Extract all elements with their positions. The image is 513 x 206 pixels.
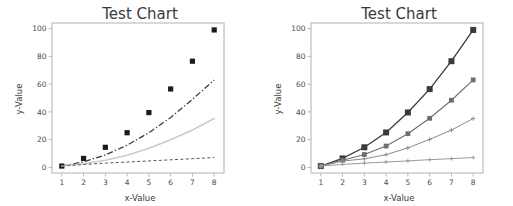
y-axis-label-right: y-Value — [273, 84, 283, 115]
marker-series-2 — [384, 144, 389, 149]
marker-series-4 — [362, 161, 366, 165]
x-tick-label: 1 — [59, 178, 64, 187]
x-tick-label: 1 — [318, 178, 323, 187]
y-tick-label: 20 — [37, 135, 47, 144]
marker-series-4 — [341, 162, 345, 166]
marker-series-2 — [449, 98, 454, 103]
marker-data-points — [190, 59, 195, 64]
marker-series-1 — [470, 27, 476, 33]
marker-data-points — [103, 145, 108, 150]
left-plot-area: 12345678020406080100 — [32, 23, 224, 187]
chart-title-left: Test Chart — [101, 5, 178, 23]
marker-data-points — [125, 130, 130, 135]
marker-series-3 — [471, 116, 475, 120]
x-tick-label: 2 — [340, 178, 345, 187]
x-tick-label: 5 — [146, 178, 151, 187]
right-plot-area: 12345678020406080100 — [291, 23, 483, 187]
x-tick-label: 7 — [449, 178, 454, 187]
x-axis-label-right: x-Value — [384, 193, 415, 203]
marker-data-points — [212, 27, 217, 32]
plot-frame — [311, 23, 483, 173]
chart-panel-right: Test Chart 12345678020406080100 x-Value … — [256, 0, 512, 206]
marker-series-3 — [406, 146, 410, 150]
marker-series-1 — [361, 144, 367, 150]
x-tick-label: 8 — [471, 178, 476, 187]
marker-series-2 — [405, 131, 410, 136]
marker-series-2 — [471, 78, 476, 83]
series-line-fit-quadratic — [62, 80, 214, 166]
y-tick-label: 20 — [296, 135, 306, 144]
y-tick-label: 60 — [37, 80, 47, 89]
right-chart-svg: Test Chart 12345678020406080100 x-Value … — [256, 0, 513, 206]
marker-series-3 — [427, 137, 431, 141]
x-tick-label: 4 — [125, 178, 130, 187]
plot-frame — [52, 23, 224, 173]
x-tick-label: 5 — [405, 178, 410, 187]
x-tick-label: 8 — [212, 178, 217, 187]
y-tick-label: 100 — [291, 24, 306, 33]
left-chart-svg: Test Chart 12345678020406080100 x-Value … — [0, 0, 256, 206]
marker-series-1 — [383, 129, 389, 135]
x-tick-label: 2 — [81, 178, 86, 187]
marker-series-4 — [471, 156, 475, 160]
series-layer — [59, 27, 217, 168]
marker-data-points — [81, 156, 86, 161]
chart-title-right: Test Chart — [360, 5, 437, 23]
y-tick-label: 40 — [37, 108, 47, 117]
x-tick-label: 6 — [168, 178, 173, 187]
marker-series-1 — [405, 109, 411, 115]
x-tick-label: 6 — [427, 178, 432, 187]
chart-panel-left: Test Chart 12345678020406080100 x-Value … — [0, 0, 256, 206]
marker-series-3 — [449, 128, 453, 132]
marker-series-3 — [384, 152, 388, 156]
figure-canvas: Test Chart 12345678020406080100 x-Value … — [0, 0, 513, 206]
marker-series-2 — [362, 152, 367, 157]
x-tick-label: 3 — [103, 178, 108, 187]
y-axis-label-left: y-Value — [14, 84, 24, 115]
x-tick-label: 7 — [190, 178, 195, 187]
x-axis-label-left: x-Value — [125, 193, 156, 203]
y-tick-label: 80 — [296, 52, 306, 61]
marker-series-4 — [428, 158, 432, 162]
x-tick-label: 3 — [362, 178, 367, 187]
y-tick-label: 40 — [296, 108, 306, 117]
y-tick-label: 0 — [42, 163, 47, 172]
marker-data-points — [146, 110, 151, 115]
x-tick-label: 4 — [384, 178, 389, 187]
y-tick-label: 100 — [32, 24, 47, 33]
marker-series-4 — [384, 160, 388, 164]
marker-series-4 — [449, 157, 453, 161]
y-tick-label: 0 — [301, 163, 306, 172]
marker-series-3 — [362, 157, 366, 161]
marker-data-points — [168, 86, 173, 91]
y-tick-label: 80 — [37, 52, 47, 61]
series-layer — [318, 27, 476, 169]
y-tick-label: 60 — [296, 80, 306, 89]
marker-series-1 — [448, 58, 454, 64]
marker-series-4 — [406, 159, 410, 163]
marker-series-1 — [427, 86, 433, 92]
marker-series-2 — [427, 116, 432, 121]
